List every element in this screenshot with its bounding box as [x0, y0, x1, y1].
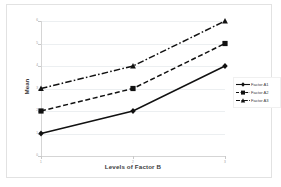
series-line-factor-a2	[41, 44, 225, 112]
series-layer	[41, 21, 225, 156]
data-point	[130, 86, 135, 91]
y-tick-label: 4	[29, 64, 38, 67]
plot-area: 0123456 123	[41, 21, 225, 156]
data-point	[222, 63, 227, 69]
y-tick-label: 3	[29, 87, 38, 90]
legend-label: Factor A3	[250, 98, 269, 103]
legend-key-factor-a2	[236, 89, 250, 96]
series-line-factor-a3	[41, 21, 225, 89]
chart-legend: Factor A1 Factor A2 Factor A3	[233, 77, 279, 108]
legend-item[interactable]: Factor A3	[236, 97, 279, 104]
data-point	[222, 41, 227, 46]
x-tick-mark	[41, 156, 42, 159]
data-point	[38, 131, 43, 137]
legend-label: Factor A1	[250, 82, 269, 87]
x-tick-mark	[225, 156, 226, 159]
y-tick-label: 1	[29, 132, 38, 135]
data-point	[130, 108, 135, 114]
series-line-factor-a1	[41, 66, 225, 134]
data-point	[222, 18, 228, 23]
legend-key-factor-a3	[236, 97, 250, 104]
y-tick-label: 2	[29, 109, 38, 112]
legend-label: Factor A2	[250, 90, 269, 95]
x-axis-title: Levels of Factor B	[41, 163, 225, 170]
x-tick-mark	[133, 156, 134, 159]
legend-item[interactable]: Factor A1	[236, 81, 279, 88]
legend-key-factor-a1	[236, 81, 250, 88]
data-point	[38, 108, 43, 113]
legend-item[interactable]: Factor A2	[236, 89, 279, 96]
y-tick-label: 5	[29, 42, 38, 45]
y-tick-label: 6	[29, 19, 38, 22]
chart-frame: Mean 0123456 123 Levels of Factor B Fact…	[6, 4, 272, 178]
y-tick-label: 0	[29, 154, 38, 157]
